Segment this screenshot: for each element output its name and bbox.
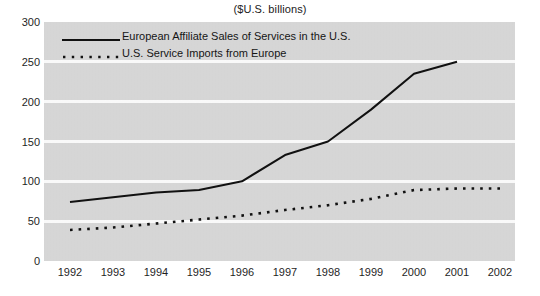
x-axis-tick-label: 1992 bbox=[48, 266, 92, 279]
x-axis-tick-label: 1995 bbox=[177, 266, 221, 279]
y-axis-tick-label: 300 bbox=[4, 16, 40, 28]
y-axis-tick-label: 200 bbox=[4, 96, 40, 108]
x-axis-tick-label: 2001 bbox=[435, 266, 479, 279]
legend-label-european-affiliate-sales: European Affiliate Sales of Services in … bbox=[122, 30, 350, 42]
legend-swatch-dotted bbox=[62, 48, 122, 58]
chart-title: ($U.S. billions) bbox=[0, 3, 540, 15]
x-axis-tick-label: 1993 bbox=[91, 266, 135, 279]
x-axis-tick-label: 1996 bbox=[220, 266, 264, 279]
x-axis-tick-label: 1998 bbox=[306, 266, 350, 279]
line-chart: ($U.S. billions) 300250200150100500 Euro… bbox=[0, 0, 540, 296]
y-axis: 300250200150100500 bbox=[0, 0, 40, 296]
legend-item-us-service-imports: U.S. Service Imports from Europe bbox=[62, 44, 362, 61]
series-line-0 bbox=[70, 62, 457, 202]
x-axis-tick-label: 1997 bbox=[263, 266, 307, 279]
x-axis-tick-label: 1999 bbox=[349, 266, 393, 279]
x-axis: 1992199319941995199619971998199920002001… bbox=[0, 266, 540, 286]
y-axis-tick-label: 100 bbox=[4, 175, 40, 187]
legend-swatch-solid bbox=[62, 31, 122, 41]
y-axis-tick-label: 50 bbox=[4, 215, 40, 227]
x-axis-tick-label: 2002 bbox=[478, 266, 522, 279]
legend-label-us-service-imports: U.S. Service Imports from Europe bbox=[122, 47, 286, 59]
x-axis-tick-label: 2000 bbox=[392, 266, 436, 279]
y-axis-tick-label: 150 bbox=[4, 136, 40, 148]
y-axis-tick-label: 250 bbox=[4, 56, 40, 68]
legend-item-european-affiliate-sales: European Affiliate Sales of Services in … bbox=[62, 27, 362, 44]
chart-legend: European Affiliate Sales of Services in … bbox=[62, 27, 362, 61]
x-axis-tick-label: 1994 bbox=[134, 266, 178, 279]
